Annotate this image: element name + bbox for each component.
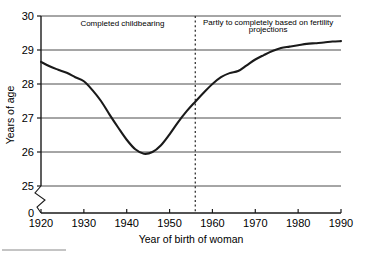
x-tick-label-1950: 1950 [157,217,181,229]
y-tick-label-26: 26 [22,146,34,158]
completed-childbearing-label: Completed childbearing [80,19,164,28]
y-tick-label-29: 29 [22,44,34,56]
x-tick-label-1920: 1920 [29,217,53,229]
x-tick-label-1970: 1970 [243,217,267,229]
y-tick-label-30: 30 [22,10,34,22]
x-tick-label-1960: 1960 [200,217,224,229]
y-tick-label-25: 25 [22,180,34,192]
x-axis-title: Year of birth of woman [139,233,244,245]
cohort-fertility-line-chart: 2526272829300 19201930194019501960197019… [0,0,368,259]
chart-background [0,0,368,259]
x-tick-label-1980: 1980 [286,217,310,229]
projection-label-line2: projections [249,25,288,34]
y-tick-label-28: 28 [22,78,34,90]
y-axis-title: Years of age [4,86,16,145]
x-tick-label-1930: 1930 [72,217,96,229]
x-tick-label-1940: 1940 [114,217,138,229]
chart-container: 2526272829300 19201930194019501960197019… [0,0,368,259]
y-tick-label-27: 27 [22,112,34,124]
x-tick-label-1990: 1990 [329,217,353,229]
